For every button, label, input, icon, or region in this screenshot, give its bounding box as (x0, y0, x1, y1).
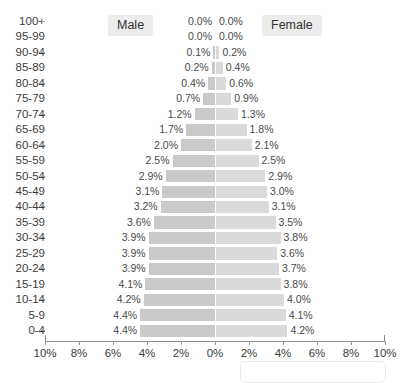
bar-female[interactable] (216, 124, 247, 136)
bar-male[interactable] (140, 309, 215, 321)
x-axis-tick (351, 341, 352, 345)
bar-female[interactable] (216, 186, 267, 198)
bar-male[interactable] (149, 232, 215, 244)
bar-female[interactable] (216, 247, 277, 259)
bar-male[interactable] (173, 155, 216, 167)
pyramid-row: 0-44.4%4.2% (0, 323, 402, 338)
value-label-male: 3.9% (122, 246, 146, 261)
pyramid-row: 45-493.1%3.0% (0, 184, 402, 199)
x-axis-tick (79, 341, 80, 345)
bar-female[interactable] (216, 108, 238, 120)
bar-male[interactable] (144, 294, 215, 306)
value-label-female: 3.5% (279, 215, 303, 230)
value-label-male: 3.1% (135, 184, 159, 199)
value-label-female: 3.8% (284, 230, 308, 245)
x-axis-tick (181, 341, 182, 345)
bar-male[interactable] (161, 201, 215, 213)
value-label-female: 0.2% (222, 45, 246, 60)
center-axis-line (215, 14, 216, 341)
bar-male[interactable] (181, 139, 215, 151)
y-axis-tick (41, 206, 45, 207)
value-label-female: 2.1% (255, 138, 279, 153)
bar-male[interactable] (145, 278, 215, 290)
bar-male[interactable] (162, 186, 215, 198)
pyramid-row: 90-940.1%0.2% (0, 45, 402, 60)
value-label-female: 3.6% (280, 246, 304, 261)
bar-female[interactable] (216, 309, 286, 321)
value-label-female: 4.0% (287, 292, 311, 307)
bottom-panel (240, 361, 386, 383)
value-label-male: 4.1% (118, 277, 142, 292)
value-label-female: 1.8% (250, 122, 274, 137)
bar-male[interactable] (208, 77, 215, 89)
pyramid-row: 20-243.9%3.7% (0, 261, 402, 276)
y-axis-tick (41, 191, 45, 192)
bar-female[interactable] (216, 155, 259, 167)
y-axis-tick (41, 253, 45, 254)
bar-male[interactable] (166, 170, 215, 182)
pyramid-row: 15-194.1%3.8% (0, 277, 402, 292)
value-label-male: 1.2% (168, 107, 192, 122)
bar-female[interactable] (216, 278, 281, 290)
pyramid-row: 10-144.2%4.0% (0, 292, 402, 307)
pyramid-row: 50-542.9%2.9% (0, 169, 402, 184)
y-axis-tick (41, 160, 45, 161)
x-axis-label: 10% (365, 347, 402, 359)
x-axis-tick (215, 341, 216, 345)
value-label-male: 0.0% (188, 14, 212, 29)
bar-female[interactable] (216, 263, 279, 275)
bar-female[interactable] (216, 201, 269, 213)
bar-male[interactable] (149, 263, 215, 275)
pyramid-row: 5-94.4%4.1% (0, 308, 402, 323)
y-axis-tick (41, 21, 45, 22)
value-label-male: 2.5% (146, 153, 170, 168)
y-axis-tick (41, 36, 45, 37)
y-axis-tick (41, 268, 45, 269)
value-label-female: 3.7% (282, 261, 306, 276)
bar-male[interactable] (149, 247, 215, 259)
pyramid-row: 30-343.9%3.8% (0, 230, 402, 245)
pyramid-row: 100+0.0%0.0% (0, 14, 402, 29)
x-axis-tick (113, 341, 114, 345)
value-label-male: 3.9% (122, 261, 146, 276)
y-axis-tick (41, 284, 45, 285)
bar-female[interactable] (216, 170, 265, 182)
pyramid-row: 65-691.7%1.8% (0, 122, 402, 137)
bar-female[interactable] (216, 77, 226, 89)
y-axis-tick (41, 114, 45, 115)
bar-female[interactable] (216, 216, 276, 228)
value-label-male: 2.0% (154, 138, 178, 153)
value-label-female: 2.5% (262, 153, 286, 168)
value-label-male: 4.4% (113, 308, 137, 323)
y-axis-tick (41, 52, 45, 53)
value-label-female: 0.4% (226, 60, 250, 75)
bar-male[interactable] (203, 93, 215, 105)
bar-male[interactable] (186, 124, 215, 136)
x-axis-tick (283, 341, 284, 345)
value-label-male: 0.0% (188, 29, 212, 44)
value-label-female: 3.8% (284, 277, 308, 292)
bar-female[interactable] (216, 232, 281, 244)
value-label-male: 0.1% (186, 45, 210, 60)
bar-female[interactable] (216, 325, 287, 337)
bar-male[interactable] (140, 325, 215, 337)
value-label-female: 1.3% (241, 107, 265, 122)
bar-male[interactable] (154, 216, 215, 228)
bar-female[interactable] (216, 139, 252, 151)
bar-male[interactable] (195, 108, 215, 120)
y-axis-tick (41, 145, 45, 146)
y-axis-tick (41, 222, 45, 223)
bar-female[interactable] (216, 93, 231, 105)
value-label-male: 3.6% (127, 215, 151, 230)
value-label-female: 2.9% (268, 169, 292, 184)
bar-female[interactable] (216, 46, 219, 58)
bar-female[interactable] (216, 62, 223, 74)
value-label-female: 3.0% (270, 184, 294, 199)
x-axis-tick (249, 341, 250, 345)
value-label-male: 2.9% (139, 169, 163, 184)
bar-female[interactable] (216, 294, 284, 306)
pyramid-row: 60-642.0%2.1% (0, 138, 402, 153)
y-axis-tick (41, 299, 45, 300)
x-axis-tick (147, 341, 148, 345)
